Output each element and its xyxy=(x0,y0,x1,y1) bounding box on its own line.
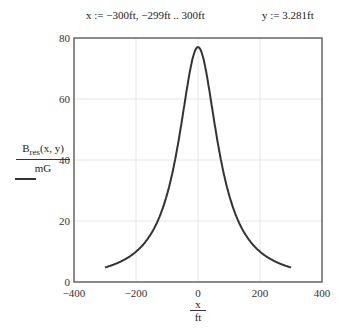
y-label-symbol: B xyxy=(22,142,29,154)
x-tick-label: −200 xyxy=(125,287,148,299)
y-tick-label: 60 xyxy=(59,93,71,105)
x-label-variable: x xyxy=(190,298,206,311)
x-axis-label: x ft xyxy=(190,298,206,323)
x-tick-label: −400 xyxy=(63,287,86,299)
y-tick-label: 80 xyxy=(59,32,71,44)
y-label-unit: mG xyxy=(16,160,70,174)
y-tick-label: 0 xyxy=(65,276,71,288)
y-axis-label: Bres(x, y) mG xyxy=(16,142,70,174)
x-tick-label: 200 xyxy=(252,287,269,299)
y-tick-label: 20 xyxy=(59,215,71,227)
y-label-subscript: res xyxy=(30,147,41,157)
y-label-underline xyxy=(15,178,36,180)
x-label-unit: ft xyxy=(190,311,206,323)
x-tick-label: 400 xyxy=(314,287,331,299)
y-label-args: (x, y) xyxy=(40,142,64,154)
